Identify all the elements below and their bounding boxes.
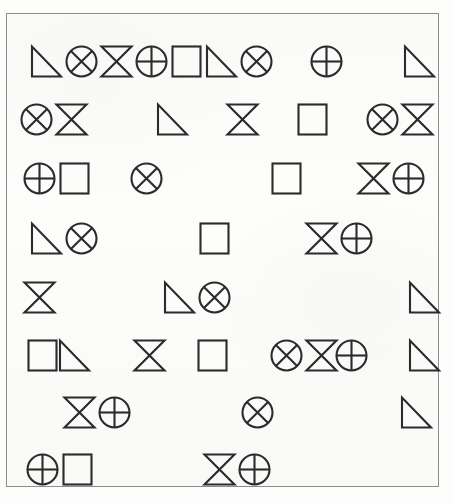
screenshot-canvas [0, 0, 453, 503]
shape-square [59, 447, 96, 491]
shape-circle-plus [338, 216, 375, 260]
shape-circle-x [196, 275, 233, 319]
shape-row [6, 216, 439, 260]
shape-circle-x [18, 97, 55, 141]
shape-triangle [154, 97, 191, 141]
shape-triangle [203, 39, 240, 83]
shape-square [196, 216, 233, 260]
shape-triangle [28, 216, 65, 260]
shape-circle-x [63, 39, 100, 83]
shape-bowtie [61, 390, 98, 434]
shape-triangle [28, 39, 65, 83]
shape-square [268, 156, 305, 200]
shape-row [6, 275, 439, 319]
shape-circle-x [63, 216, 100, 260]
shape-square [168, 39, 205, 83]
shape-row [6, 447, 439, 491]
shape-grid [6, 13, 439, 487]
shape-circle-plus [333, 333, 370, 377]
shape-bowtie [399, 97, 436, 141]
shape-row [6, 333, 439, 377]
shape-circle-x [364, 97, 401, 141]
shape-circle-plus [21, 156, 58, 200]
shape-row [6, 97, 439, 141]
shape-circle-x [238, 39, 275, 83]
shape-circle-plus [236, 447, 273, 491]
shape-row [6, 39, 439, 83]
shape-circle-x [268, 333, 305, 377]
shape-triangle [406, 275, 443, 319]
shape-bowtie [303, 216, 340, 260]
shape-bowtie [131, 333, 168, 377]
shape-triangle [56, 333, 93, 377]
shape-circle-plus [308, 39, 345, 83]
shape-square [56, 156, 93, 200]
shape-circle-plus [133, 39, 170, 83]
shape-bowtie [201, 447, 238, 491]
shape-bowtie [21, 275, 58, 319]
shape-circle-plus [390, 156, 427, 200]
shape-square [294, 97, 331, 141]
shape-bowtie [355, 156, 392, 200]
shape-row [6, 156, 439, 200]
shape-triangle [406, 333, 443, 377]
shape-bowtie [98, 39, 135, 83]
shape-circle-plus [24, 447, 61, 491]
shape-circle-plus [96, 390, 133, 434]
shape-circle-x [239, 390, 276, 434]
shape-bowtie [224, 97, 261, 141]
shape-circle-x [128, 156, 165, 200]
shape-triangle [401, 39, 438, 83]
shape-square [194, 333, 231, 377]
shape-bowtie [53, 97, 90, 141]
shape-triangle [398, 390, 435, 434]
shape-triangle [161, 275, 198, 319]
shape-row [6, 390, 439, 434]
